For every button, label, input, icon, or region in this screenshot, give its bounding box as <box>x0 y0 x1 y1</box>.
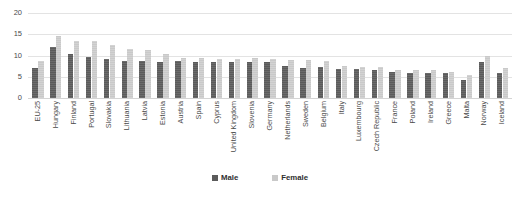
bar-group <box>368 13 386 98</box>
bar-male[interactable] <box>157 62 162 98</box>
bar-group <box>279 13 297 98</box>
x-label-slot: United Kingdom <box>225 99 243 161</box>
bar-male[interactable] <box>479 62 484 98</box>
y-tick-0: 0 <box>18 94 22 102</box>
bar-male[interactable] <box>229 62 234 98</box>
x-axis-label: Norway <box>481 101 488 125</box>
bar-female[interactable] <box>449 72 454 98</box>
bar-male[interactable] <box>247 62 252 98</box>
bar-female[interactable] <box>235 59 240 98</box>
bar-male[interactable] <box>211 62 216 98</box>
bar-male[interactable] <box>389 72 394 98</box>
bar-male[interactable] <box>122 61 127 98</box>
bar-group <box>440 13 458 98</box>
bar-male[interactable] <box>32 68 37 98</box>
bar-male[interactable] <box>68 54 73 98</box>
bar-group <box>136 13 154 98</box>
x-label-slot: Ireland <box>422 99 440 161</box>
bar-group <box>404 13 422 98</box>
bar-groups <box>28 13 512 98</box>
bar-male[interactable] <box>461 80 466 98</box>
bar-female[interactable] <box>270 59 275 98</box>
bar-female[interactable] <box>217 59 222 98</box>
bar-male[interactable] <box>175 61 180 98</box>
x-axis-label: Italy <box>338 101 345 114</box>
x-label-slot: Spain <box>190 99 208 161</box>
bar-female[interactable] <box>110 45 115 98</box>
x-label-slot: Malta <box>458 99 476 161</box>
bar-male[interactable] <box>264 62 269 98</box>
bar-female[interactable] <box>360 67 365 98</box>
bar-male[interactable] <box>497 73 502 98</box>
x-label-slot: Portugal <box>83 99 101 161</box>
bar-male[interactable] <box>282 66 287 98</box>
bar-female[interactable] <box>324 61 329 98</box>
bar-male[interactable] <box>318 67 323 98</box>
bar-female[interactable] <box>467 75 472 98</box>
x-axis-label: Luxembourg <box>356 101 363 141</box>
bar-female[interactable] <box>38 61 43 98</box>
x-label-slot: France <box>386 99 404 161</box>
legend-swatch-female-icon <box>272 175 278 181</box>
bar-male[interactable] <box>407 73 412 99</box>
x-label-slot: Belgium <box>315 99 333 161</box>
bar-female[interactable] <box>503 68 508 98</box>
x-label-slot: Netherlands <box>279 99 297 161</box>
x-axis-label: Portugal <box>88 101 95 128</box>
y-tick-15: 15 <box>14 31 22 39</box>
y-tick-10: 10 <box>14 52 22 60</box>
legend-label-female: Female <box>281 173 308 182</box>
bar-female[interactable] <box>252 58 257 98</box>
x-axis-label: Poland <box>409 101 416 123</box>
bar-group <box>261 13 279 98</box>
bar-female[interactable] <box>127 49 132 98</box>
bar-group <box>65 13 83 98</box>
x-label-slot: Austria <box>172 99 190 161</box>
x-axis-label: Greece <box>445 101 452 125</box>
x-axis-label: Estonia <box>159 101 166 125</box>
bar-male[interactable] <box>354 69 359 98</box>
bar-female[interactable] <box>74 41 79 98</box>
bar-male[interactable] <box>443 73 448 98</box>
bar-male[interactable] <box>193 62 198 98</box>
bar-female[interactable] <box>199 58 204 98</box>
bar-male[interactable] <box>50 47 55 98</box>
bar-female[interactable] <box>378 67 383 98</box>
bar-male[interactable] <box>104 59 109 98</box>
legend-item-male[interactable]: Male <box>212 173 238 182</box>
bar-female[interactable] <box>56 36 61 98</box>
bar-female[interactable] <box>395 70 400 98</box>
bar-group <box>243 13 261 98</box>
bar-female[interactable] <box>413 70 418 98</box>
x-axis-label: United Kingdom <box>231 101 238 152</box>
bar-female[interactable] <box>145 50 150 98</box>
x-axis-label: Spain <box>195 101 202 119</box>
legend-item-female[interactable]: Female <box>272 173 308 182</box>
x-label-slot: Czech Republic <box>368 99 386 161</box>
x-axis-label: Finland <box>70 101 77 125</box>
x-axis-label: Latvia <box>141 101 148 120</box>
bar-female[interactable] <box>92 41 97 98</box>
bar-female[interactable] <box>288 60 293 98</box>
bar-female[interactable] <box>342 66 347 98</box>
bar-male[interactable] <box>372 70 377 98</box>
bar-male[interactable] <box>139 61 144 98</box>
bar-male[interactable] <box>336 69 341 98</box>
bar-female[interactable] <box>431 70 436 98</box>
bar-group <box>386 13 404 98</box>
bar-group <box>83 13 101 98</box>
x-label-slot: Lithuania <box>118 99 136 161</box>
x-label-slot: Slovakia <box>100 99 118 161</box>
bar-female[interactable] <box>181 58 186 98</box>
bar-group <box>154 13 172 98</box>
bar-male[interactable] <box>425 73 430 98</box>
bar-group <box>350 13 368 98</box>
bar-male[interactable] <box>86 57 91 98</box>
x-label-slot: Finland <box>65 99 83 161</box>
bar-female[interactable] <box>306 60 311 98</box>
bar-female[interactable] <box>163 54 168 98</box>
bar-male[interactable] <box>300 68 305 98</box>
bar-group <box>315 13 333 98</box>
x-label-slot: Slovenia <box>243 99 261 161</box>
bar-female[interactable] <box>485 56 490 98</box>
